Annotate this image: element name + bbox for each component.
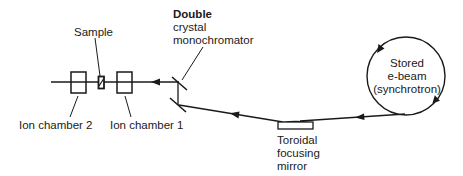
monochromator-label-line1: Double [173,8,212,20]
ion-chamber-1-leader [125,96,131,117]
source-label-line1: Stored [372,57,442,69]
sample-leader [95,38,100,76]
beam-line-output [51,79,179,86]
sample-label: Sample [74,26,113,38]
toroidal-mirror [278,121,313,129]
beam-line-mirror-to-mono [179,105,283,122]
sample-holder [99,77,105,89]
source-label-line3: (synchrotron) [369,83,445,95]
ion-chamber-1-label: Ion chamber 1 [110,119,184,131]
beam-line-source-to-mirror [300,114,405,122]
beam-arrow-icon [151,79,160,86]
ring-arrow-icon [377,44,385,53]
ion-chamber-2-leader [70,96,78,117]
monochromator-label-line3: monochromator [173,34,254,46]
source-label-line2: e-beam [372,70,442,82]
beam-arrow-icon [230,112,240,119]
monochromator-label-line2: crystal [173,21,206,33]
mirror-label-line1: Toroidal [277,134,317,146]
beamline-diagram: Sample Ion chamber 2 Ion chamber 1 Doubl… [0,0,463,176]
ion-chamber-2-label: Ion chamber 2 [19,119,93,131]
mirror-label-line3: mirror [277,160,307,172]
monochromator-leader [182,47,203,80]
mirror-label-line2: focusing [277,147,320,159]
